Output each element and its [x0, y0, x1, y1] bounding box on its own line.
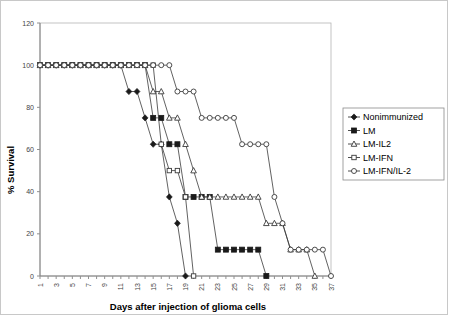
- y-axis-ticks: 020406080100120: [22, 20, 40, 280]
- marker-open-circle: [86, 63, 91, 68]
- marker-open-square: [175, 168, 179, 172]
- marker-open-square: [183, 195, 187, 199]
- x-tick-label: 3: [53, 283, 60, 287]
- marker-open-circle: [62, 63, 67, 68]
- marker-filled-square: [264, 274, 269, 279]
- marker-open-circle: [151, 63, 156, 68]
- marker-open-circle: [167, 63, 172, 68]
- marker-open-circle: [199, 115, 204, 120]
- marker-open-circle: [329, 274, 334, 279]
- x-tick-label: 25: [231, 283, 238, 291]
- marker-open-circle: [46, 63, 51, 68]
- marker-open-circle: [126, 63, 131, 68]
- x-tick-label: 1: [37, 283, 44, 287]
- y-tick-label: 40: [26, 188, 34, 195]
- y-tick-label: 60: [26, 146, 34, 153]
- marker-open-circle: [352, 169, 357, 174]
- x-tick-label: 21: [198, 283, 205, 291]
- marker-filled-square: [223, 247, 228, 252]
- marker-open-square: [352, 155, 356, 159]
- y-tick-label: 20: [26, 230, 34, 237]
- legend-label: LM-IFN/IL-2: [363, 166, 411, 176]
- marker-open-circle: [215, 115, 220, 120]
- marker-open-circle: [135, 63, 140, 68]
- x-tick-label: 11: [117, 283, 124, 290]
- marker-open-circle: [191, 89, 196, 94]
- x-tick-label: 33: [295, 283, 302, 291]
- marker-open-circle: [143, 63, 148, 68]
- marker-open-circle: [94, 63, 99, 68]
- marker-open-circle: [232, 115, 237, 120]
- x-tick-label: 35: [311, 283, 318, 291]
- x-tick-label: 13: [134, 283, 141, 291]
- legend-label: Nonimmunized: [363, 112, 423, 122]
- marker-filled-square: [232, 247, 237, 252]
- x-tick-label: 9: [101, 283, 108, 287]
- marker-open-circle: [280, 221, 285, 226]
- marker-open-square: [159, 142, 163, 146]
- marker-open-circle: [54, 63, 59, 68]
- legend-label: LM-IL2: [363, 139, 391, 149]
- marker-open-circle: [175, 89, 180, 94]
- y-tick-label: 80: [26, 104, 34, 111]
- marker-open-circle: [312, 247, 317, 252]
- y-tick-label: 120: [22, 20, 34, 27]
- y-axis-title: % Survival: [5, 146, 16, 194]
- marker-open-circle: [320, 247, 325, 252]
- marker-open-circle: [207, 115, 212, 120]
- y-tick-label: 0: [30, 273, 34, 280]
- marker-open-circle: [288, 247, 293, 252]
- marker-open-circle: [272, 194, 277, 199]
- x-axis-title: Days after injection of glioma cells: [110, 301, 266, 312]
- marker-filled-square: [159, 115, 164, 120]
- marker-filled-square: [240, 247, 245, 252]
- legend-label: LM-IFN: [363, 153, 393, 163]
- marker-filled-square: [248, 247, 253, 252]
- marker-open-circle: [110, 63, 115, 68]
- x-tick-label: 23: [214, 283, 221, 291]
- x-tick-label: 37: [328, 283, 335, 291]
- marker-open-circle: [223, 115, 228, 120]
- x-tick-label: 27: [247, 283, 254, 291]
- marker-filled-square: [256, 247, 261, 252]
- marker-open-circle: [70, 63, 75, 68]
- x-tick-label: 19: [182, 283, 189, 291]
- marker-open-square: [191, 274, 195, 278]
- marker-filled-square: [215, 247, 220, 252]
- marker-open-circle: [183, 89, 188, 94]
- marker-open-circle: [240, 142, 245, 147]
- y-tick-label: 100: [22, 62, 34, 69]
- x-tick-label: 31: [279, 283, 286, 291]
- marker-open-circle: [38, 63, 43, 68]
- legend-label: LM: [363, 126, 376, 136]
- marker-filled-square: [352, 128, 357, 133]
- marker-filled-square: [167, 142, 172, 147]
- chart-page: 020406080100120 135791113151719212325272…: [0, 0, 449, 316]
- marker-filled-square: [151, 115, 156, 120]
- marker-open-circle: [159, 63, 164, 68]
- marker-filled-square: [191, 194, 196, 199]
- marker-open-square: [167, 168, 171, 172]
- marker-open-circle: [118, 63, 123, 68]
- survival-chart: 020406080100120 135791113151719212325272…: [0, 0, 449, 316]
- marker-open-circle: [248, 142, 253, 147]
- chart-legend: NonimmunizedLMLM-IL2LM-IFNLM-IFN/IL-2: [343, 108, 444, 180]
- x-tick-label: 7: [85, 283, 92, 287]
- x-tick-label: 5: [69, 283, 76, 287]
- marker-open-circle: [304, 247, 309, 252]
- x-tick-label: 17: [166, 283, 173, 291]
- x-tick-label: 29: [263, 283, 270, 291]
- marker-open-circle: [296, 247, 301, 252]
- marker-open-circle: [78, 63, 83, 68]
- marker-open-circle: [102, 63, 107, 68]
- marker-filled-square: [175, 142, 180, 147]
- marker-open-circle: [264, 142, 269, 147]
- x-tick-label: 15: [150, 283, 157, 291]
- marker-open-circle: [256, 142, 261, 147]
